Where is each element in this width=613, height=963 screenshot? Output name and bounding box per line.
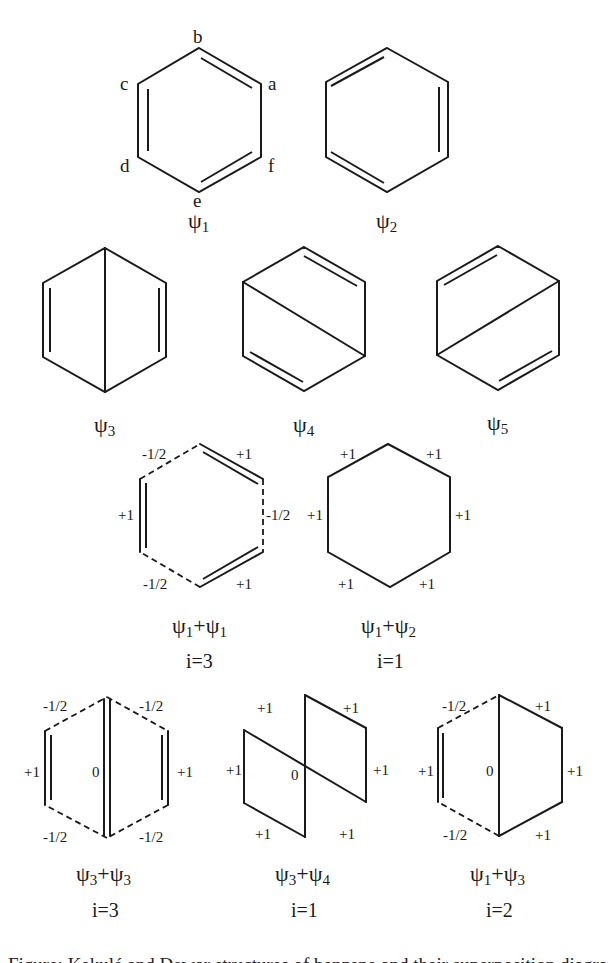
superposition-psi3-psi4: +1 +1 +1 +1 +1 +1 0 ψ3+ψ4 i=1 [226, 695, 389, 921]
structure-psi4: ψ4 [243, 247, 365, 439]
bond-order-top-left: -1/2 [43, 698, 67, 714]
bond-order-bottom-right: +1 [236, 576, 252, 592]
label-psi3-plus-psi3: ψ3+ψ3 [76, 861, 131, 888]
bond-order-bottom-right: +1 [535, 827, 551, 843]
atom-label-b: b [193, 26, 203, 47]
bond-order-top-right: -1/2 [139, 698, 163, 714]
bond-order-center: 0 [486, 763, 494, 779]
atom-label-a: a [268, 73, 277, 94]
atom-label-c: c [120, 73, 128, 94]
structure-psi3: ψ3 [43, 248, 166, 439]
bond-order-center: 0 [291, 767, 299, 783]
structure-psi2: ψ2 [326, 48, 448, 235]
bond-order-bottom-left: -1/2 [143, 576, 167, 592]
bond-order-top-left: -1/2 [142, 446, 166, 462]
label-psi2: ψ2 [376, 208, 397, 235]
superposition-psi1-psi3: -1/2 +1 +1 +1 -1/2 +1 0 ψ1+ψ3 i=2 [418, 695, 583, 921]
label-psi1-plus-psi1: ψ1+ψ1 [172, 613, 227, 640]
bond-order-right: +1 [455, 507, 471, 523]
label-psi1-plus-psi3: ψ1+ψ3 [470, 861, 525, 888]
bond-order-bottom-left: +1 [255, 826, 271, 842]
bond-order-left: +1 [24, 764, 40, 780]
bond-order-bottom-left: +1 [338, 576, 354, 592]
bond-order-bottom-right: -1/2 [139, 829, 163, 845]
atom-label-d: d [120, 155, 130, 176]
island-count: i=1 [377, 650, 404, 672]
island-count: i=3 [186, 650, 213, 672]
bond-order-top-right: +1 [426, 446, 442, 462]
bond-order-bottom-left: -1/2 [443, 827, 467, 843]
bond-order-left: +1 [226, 762, 242, 778]
bond-order-bottom-left: -1/2 [43, 829, 67, 845]
island-count: i=2 [486, 899, 513, 921]
bond-order-top-right: +1 [535, 698, 551, 714]
label-psi3-plus-psi4: ψ3+ψ4 [275, 861, 330, 888]
label-psi4: ψ4 [293, 412, 315, 439]
structure-psi5: ψ5 [437, 246, 559, 437]
bond-order-left: +1 [418, 763, 434, 779]
superposition-psi1-psi2: +1 +1 +1 +1 +1 +1 ψ1+ψ2 i=1 [307, 444, 471, 672]
bond-order-left: +1 [118, 507, 134, 523]
superposition-psi1-psi1: -1/2 +1 -1/2 +1 -1/2 +1 ψ1+ψ1 i=3 [118, 444, 290, 672]
bond-order-right: -1/2 [266, 507, 290, 523]
label-psi1: ψ1 [188, 208, 209, 235]
bond-order-bottom-right: +1 [419, 576, 435, 592]
structure-psi1: b a c d f e ψ1 [120, 26, 277, 235]
atom-label-f: f [268, 155, 275, 176]
figure-caption: Figure: Kekulé and Dewar structures of b… [8, 952, 608, 963]
island-count: i=3 [92, 899, 119, 921]
bond-order-top-right: +1 [343, 700, 359, 716]
bond-order-top-left: +1 [257, 700, 273, 716]
bond-order-top-left: +1 [340, 446, 356, 462]
bond-order-center: 0 [92, 764, 100, 780]
bond-order-top-right: +1 [236, 446, 252, 462]
label-psi3: ψ3 [94, 412, 115, 439]
label-psi1-plus-psi2: ψ1+ψ2 [361, 613, 416, 640]
bond-order-right: +1 [567, 763, 583, 779]
label-psi5: ψ5 [487, 410, 508, 437]
bond-order-left: +1 [307, 507, 323, 523]
bond-order-right: +1 [177, 764, 193, 780]
bond-order-right: +1 [373, 762, 389, 778]
valence-bond-figure: b a c d f e ψ1 ψ2 ψ3 ψ4 ψ5 [0, 0, 613, 963]
island-count: i=1 [291, 899, 318, 921]
bond-order-top-left: -1/2 [442, 698, 466, 714]
bond-order-bottom-right: +1 [339, 826, 355, 842]
superposition-psi3-psi3: -1/2 -1/2 +1 -1/2 -1/2 +1 0 ψ3+ψ3 i=3 [24, 697, 193, 921]
